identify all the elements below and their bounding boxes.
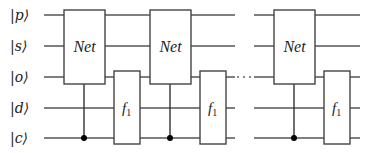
ellipsis-dot [249,76,251,78]
control-dot [291,135,297,141]
ellipsis-dot [237,76,239,78]
ket-label-d: |d⟩ [10,100,29,117]
ket-label-o: |o⟩ [10,69,29,86]
control-dot [167,135,173,141]
qubit-labels: |p⟩ |s⟩ |o⟩ |d⟩ |c⟩ [10,7,29,147]
block-3: Net f1 [274,10,350,144]
ket-label-p: |p⟩ [10,7,29,24]
block-1: Net f1 [64,10,140,144]
control-dot [81,135,87,141]
ket-label-s: |s⟩ [10,38,27,55]
block-2: Net f1 [150,10,226,144]
ellipsis [237,76,251,78]
net-gate-label: Net [158,38,182,55]
ket-label-c: |c⟩ [10,130,28,147]
circuit-diagram: |p⟩ |s⟩ |o⟩ |d⟩ |c⟩ Net f1 Net [0,0,376,153]
net-gate-label: Net [72,38,96,55]
ellipsis-dot [243,76,245,78]
net-gate-label: Net [282,38,306,55]
